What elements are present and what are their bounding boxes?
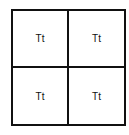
punnett-cell-top-left: Tt	[13, 11, 69, 68]
genotype-label: Tt	[36, 91, 45, 102]
punnett-square: Tt Tt Tt Tt	[11, 9, 126, 126]
punnett-cell-bottom-right: Tt	[69, 68, 124, 124]
punnett-cell-top-right: Tt	[69, 11, 124, 68]
punnett-cell-bottom-left: Tt	[13, 68, 69, 124]
genotype-label: Tt	[92, 91, 101, 102]
genotype-label: Tt	[36, 33, 45, 44]
genotype-label: Tt	[92, 33, 101, 44]
